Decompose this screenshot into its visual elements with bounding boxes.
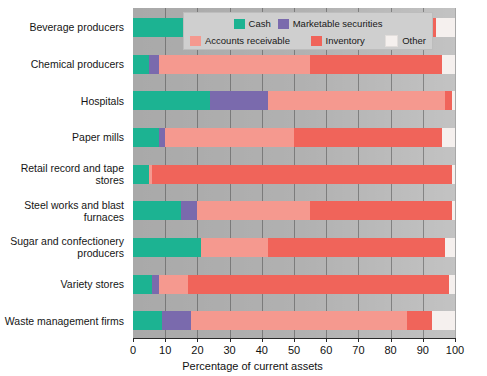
bar-segment-accounts-receivable bbox=[159, 275, 188, 294]
legend-swatch-other bbox=[385, 35, 398, 47]
bar-segment-inventory bbox=[310, 201, 452, 220]
bar-segment-cash bbox=[133, 91, 210, 110]
bar-segment-inventory bbox=[294, 128, 442, 147]
bar-segment-inventory bbox=[188, 275, 449, 294]
bar-segment-cash bbox=[133, 201, 181, 220]
legend-row-1: Cash Marketable securities bbox=[188, 15, 428, 32]
table-row bbox=[133, 55, 455, 74]
x-tick-40 bbox=[262, 338, 263, 342]
category-label: Steel works and blast furnaces bbox=[0, 199, 124, 223]
category-label: Sugar and confectionery producers bbox=[0, 235, 124, 259]
x-tick-label-80: 80 bbox=[384, 344, 396, 357]
x-tick-label-20: 20 bbox=[191, 344, 203, 357]
bar-segment-accounts-receivable bbox=[159, 55, 310, 74]
bar-segment-other bbox=[436, 18, 455, 37]
legend-label-cash: Cash bbox=[249, 19, 271, 29]
bar-series-container bbox=[133, 8, 455, 338]
bar-segment-accounts-receivable bbox=[165, 128, 294, 147]
bar-segment-cash bbox=[133, 128, 159, 147]
bar-segment-marketable-securities bbox=[149, 55, 159, 74]
bar-segment-other bbox=[449, 275, 455, 294]
legend-label-other: Other bbox=[402, 36, 426, 46]
category-label: Paper mills bbox=[0, 131, 124, 143]
bar-segment-cash bbox=[133, 238, 201, 257]
bar-segment-inventory bbox=[268, 238, 445, 257]
x-tick-30 bbox=[230, 338, 231, 342]
legend-swatch-inventory bbox=[311, 36, 322, 46]
x-tick-label-90: 90 bbox=[417, 344, 429, 357]
bar-segment-cash bbox=[133, 311, 162, 330]
x-tick-70 bbox=[358, 338, 359, 342]
x-tick-80 bbox=[391, 338, 392, 342]
category-axis-labels: Beverage producersChemical producersHosp… bbox=[0, 8, 128, 338]
bar-segment-inventory bbox=[152, 165, 451, 184]
table-row bbox=[133, 165, 455, 184]
category-label: Variety stores bbox=[0, 278, 124, 290]
x-tick-label-100: 100 bbox=[446, 344, 464, 357]
x-tick-label-50: 50 bbox=[288, 344, 300, 357]
table-row bbox=[133, 311, 455, 330]
bar-segment-marketable-securities bbox=[162, 311, 191, 330]
x-tick-label-70: 70 bbox=[352, 344, 364, 357]
x-tick-label-30: 30 bbox=[223, 344, 235, 357]
category-label: Retail record and tape stores bbox=[0, 162, 124, 186]
stacked-bar-chart: Beverage producersChemical producersHosp… bbox=[0, 0, 487, 376]
bar-segment-accounts-receivable bbox=[191, 311, 407, 330]
bar-segment-cash bbox=[133, 165, 149, 184]
chart-legend: Cash Marketable securities Accounts rece… bbox=[183, 12, 433, 50]
legend-item-marketable-securities: Marketable securities bbox=[278, 19, 383, 29]
x-tick-50 bbox=[294, 338, 295, 342]
category-label: Hospitals bbox=[0, 95, 124, 107]
bar-segment-cash bbox=[133, 55, 149, 74]
bar-segment-other bbox=[452, 91, 455, 110]
legend-swatch-marketable-securities bbox=[278, 19, 289, 29]
legend-item-cash: Cash bbox=[234, 19, 271, 29]
x-tick-label-10: 10 bbox=[159, 344, 171, 357]
bar-segment-marketable-securities bbox=[210, 91, 268, 110]
table-row bbox=[133, 238, 455, 257]
legend-item-accounts-receivable: Accounts receivable bbox=[190, 36, 290, 46]
legend-label-marketable-securities: Marketable securities bbox=[293, 19, 383, 29]
bar-segment-accounts-receivable bbox=[197, 201, 310, 220]
bar-segment-inventory bbox=[310, 55, 442, 74]
legend-item-other: Other bbox=[385, 35, 426, 47]
x-tick-label-60: 60 bbox=[320, 344, 332, 357]
bar-segment-other bbox=[452, 165, 455, 184]
table-row bbox=[133, 91, 455, 110]
legend-swatch-accounts-receivable bbox=[190, 36, 201, 46]
legend-label-inventory: Inventory bbox=[326, 36, 365, 46]
x-tick-20 bbox=[197, 338, 198, 342]
bar-segment-other bbox=[442, 128, 455, 147]
bar-segment-other bbox=[442, 55, 455, 74]
bar-segment-other bbox=[452, 201, 455, 220]
gridline-100 bbox=[455, 8, 456, 338]
x-tick-100 bbox=[455, 338, 456, 342]
bar-segment-inventory bbox=[407, 311, 433, 330]
bar-segment-accounts-receivable bbox=[201, 238, 269, 257]
table-row bbox=[133, 201, 455, 220]
bar-segment-other bbox=[445, 238, 455, 257]
legend-label-accounts-receivable: Accounts receivable bbox=[205, 36, 290, 46]
bar-segment-cash bbox=[133, 275, 152, 294]
x-tick-60 bbox=[326, 338, 327, 342]
category-label: Chemical producers bbox=[0, 58, 124, 70]
bar-segment-marketable-securities bbox=[181, 201, 197, 220]
x-tick-label-0: 0 bbox=[130, 344, 136, 357]
x-tick-10 bbox=[165, 338, 166, 342]
legend-swatch-cash bbox=[234, 19, 245, 29]
x-axis-title: Percentage of current assets bbox=[0, 360, 487, 372]
x-axis-title-text: Percentage of current assets bbox=[182, 360, 323, 372]
legend-item-inventory: Inventory bbox=[311, 36, 365, 46]
category-label: Waste management firms bbox=[0, 315, 124, 327]
legend-row-2: Accounts receivable Inventory Other bbox=[188, 32, 428, 49]
table-row bbox=[133, 128, 455, 147]
category-label: Beverage producers bbox=[0, 21, 124, 33]
bar-segment-accounts-receivable bbox=[268, 91, 445, 110]
bar-segment-other bbox=[432, 311, 455, 330]
x-tick-90 bbox=[423, 338, 424, 342]
x-tick-label-40: 40 bbox=[256, 344, 268, 357]
table-row bbox=[133, 275, 455, 294]
x-tick-0 bbox=[133, 338, 134, 342]
